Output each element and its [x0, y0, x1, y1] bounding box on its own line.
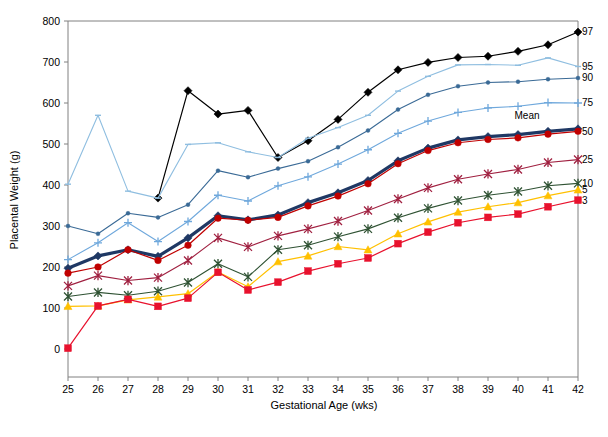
- x-tick-label: 37: [422, 383, 434, 395]
- data-point-marker: [125, 246, 132, 253]
- data-point-marker: [65, 345, 72, 352]
- x-axis-title: Gestational Age (wks): [271, 399, 378, 411]
- data-point-marker: [185, 295, 192, 302]
- x-tick-label: 32: [272, 383, 284, 395]
- data-point-marker: [275, 214, 282, 221]
- data-point-marker: [215, 269, 222, 276]
- y-tick-label: 700: [42, 56, 60, 68]
- x-tick-label: 26: [92, 383, 104, 395]
- y-tick-label: 200: [42, 261, 60, 273]
- data-point-marker: [305, 268, 312, 275]
- x-tick-label: 29: [182, 383, 194, 395]
- x-tick-label: 39: [482, 383, 494, 395]
- data-point-marker: [366, 128, 370, 132]
- data-point-marker: [335, 193, 342, 200]
- series-end-label-3: 3: [582, 195, 588, 206]
- x-tick-label: 41: [542, 383, 554, 395]
- x-tick-label: 31: [242, 383, 254, 395]
- series-end-label-97: 97: [582, 26, 594, 37]
- data-point-marker: [516, 80, 520, 84]
- data-point-marker: [396, 108, 400, 112]
- placental-weight-chart: 0100200300400500600700800 25262728293031…: [0, 0, 608, 437]
- x-tick-label: 35: [362, 383, 374, 395]
- data-point-marker: [515, 211, 522, 218]
- data-point-marker: [455, 139, 462, 146]
- data-point-marker: [156, 215, 160, 219]
- data-point-marker: [215, 215, 222, 222]
- x-tick-label: 42: [572, 383, 584, 395]
- data-point-marker: [246, 175, 250, 179]
- data-point-marker: [455, 219, 462, 226]
- data-point-marker: [456, 84, 460, 88]
- y-axis-title: Placental Weight (g): [8, 151, 20, 250]
- data-point-marker: [306, 159, 310, 163]
- data-point-marker: [216, 169, 220, 173]
- data-point-marker: [575, 128, 582, 135]
- data-point-marker: [365, 255, 372, 262]
- data-point-marker: [305, 203, 312, 210]
- data-point-marker: [126, 211, 130, 215]
- data-point-marker: [276, 167, 280, 171]
- y-tick-label: 0: [54, 343, 60, 355]
- data-point-marker: [245, 287, 252, 294]
- data-point-marker: [95, 264, 102, 271]
- data-point-marker: [336, 145, 340, 149]
- x-tick-label: 34: [332, 383, 344, 395]
- x-tick-label: 27: [122, 383, 134, 395]
- data-point-marker: [365, 180, 372, 187]
- data-point-marker: [575, 197, 582, 204]
- data-point-marker: [66, 224, 70, 228]
- series-end-label-50: 50: [582, 126, 594, 137]
- x-tick-label: 38: [452, 383, 464, 395]
- x-tick-label: 25: [62, 383, 74, 395]
- series-end-label-75: 75: [582, 97, 594, 108]
- data-point-marker: [425, 147, 432, 154]
- data-point-marker: [395, 160, 402, 167]
- x-tick-label: 36: [392, 383, 404, 395]
- x-tick-label: 28: [152, 383, 164, 395]
- y-tick-label: 400: [42, 179, 60, 191]
- data-point-marker: [95, 303, 102, 310]
- data-point-marker: [185, 242, 192, 249]
- data-point-marker: [186, 203, 190, 207]
- data-point-marker: [395, 240, 402, 247]
- data-point-marker: [546, 77, 550, 81]
- data-point-marker: [485, 214, 492, 221]
- series-end-label-90: 90: [582, 72, 594, 83]
- data-point-marker: [335, 260, 342, 267]
- data-point-marker: [545, 203, 552, 210]
- data-point-marker: [486, 81, 490, 85]
- data-point-marker: [425, 229, 432, 236]
- annotation-mean: Mean: [514, 110, 539, 121]
- x-tick-label: 30: [212, 383, 224, 395]
- data-point-marker: [155, 303, 162, 310]
- data-point-marker: [576, 76, 580, 80]
- chart-canvas: 0100200300400500600700800 25262728293031…: [0, 0, 608, 437]
- x-tick-label: 40: [512, 383, 524, 395]
- y-tick-label: 100: [42, 302, 60, 314]
- data-point-marker: [275, 279, 282, 286]
- data-point-marker: [245, 217, 252, 224]
- data-point-marker: [545, 131, 552, 138]
- x-tick-label: 33: [302, 383, 314, 395]
- data-point-marker: [125, 296, 132, 303]
- data-point-marker: [426, 93, 430, 97]
- data-point-marker: [485, 136, 492, 143]
- data-point-marker: [65, 270, 72, 277]
- data-point-marker: [515, 135, 522, 142]
- y-tick-label: 500: [42, 138, 60, 150]
- y-tick-label: 800: [42, 15, 60, 27]
- y-tick-label: 600: [42, 97, 60, 109]
- y-tick-label: 300: [42, 220, 60, 232]
- series-end-label-25: 25: [582, 154, 594, 165]
- data-point-marker: [96, 232, 100, 236]
- series-end-label-95: 95: [582, 61, 594, 72]
- data-point-marker: [155, 257, 162, 264]
